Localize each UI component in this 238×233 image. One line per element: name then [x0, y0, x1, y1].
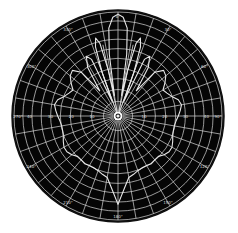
radial-tick-label: 30 [183, 114, 189, 119]
angle-label: 180° [113, 214, 123, 219]
angle-label: 60° [201, 64, 208, 69]
angle-label: 210° [63, 200, 73, 205]
angle-label: 90° [214, 114, 221, 119]
angle-label: 330° [63, 27, 73, 32]
angle-label: 270° [13, 114, 23, 119]
angle-label: 300° [27, 64, 37, 69]
radial-tick-label: 10 [141, 114, 147, 119]
angle-label: 30° [164, 27, 171, 32]
angle-label: 120° [200, 164, 210, 169]
center-hub [114, 112, 123, 121]
radial-tick-label: 30 [48, 114, 54, 119]
radial-tick-label: 20 [162, 114, 168, 119]
polar-chart: 0°30°60°90°120°150°180°210°240°270°300°3… [0, 0, 238, 233]
radial-tick-label: 40 [27, 114, 33, 119]
angle-label: 150° [163, 200, 173, 205]
hub-inner-icon [116, 114, 119, 117]
radial-tick-label: 40 [204, 114, 210, 119]
radial-tick-label: 10 [89, 114, 95, 119]
radial-tick-label: 20 [69, 114, 75, 119]
angle-label: 240° [27, 164, 37, 169]
